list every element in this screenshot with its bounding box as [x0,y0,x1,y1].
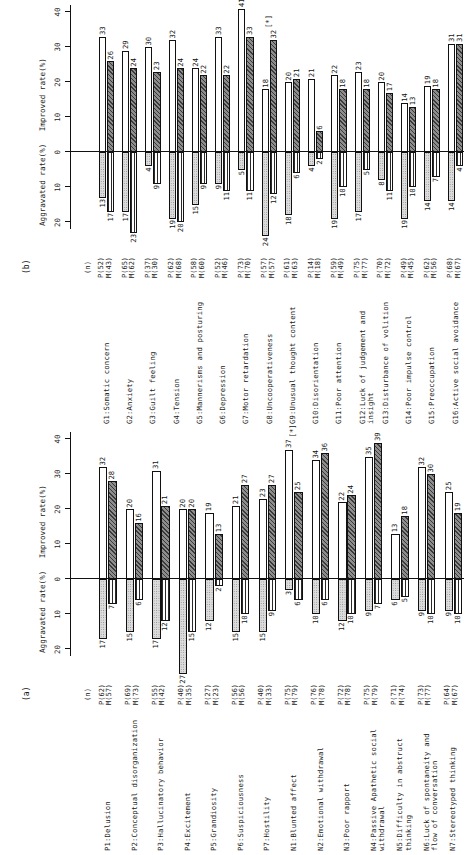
category-labels-column: P1:DelusionP2:Conceptual disorganization… [0,705,476,851]
bar-p-aggravated [205,579,213,621]
axis-tick-label: 40 [53,3,62,21]
value-label-m-improved: 26 [106,51,115,60]
bar-p-improved [215,37,222,153]
sample-size-pair: P(14) M(18) [308,242,323,278]
sample-size-pair: P(75) M(79) [285,669,300,705]
bar-p-improved [418,467,426,579]
bar-p-improved [424,86,431,153]
value-label-p-improved: 29 [121,40,130,49]
value-label-p-aggravated: 10 [311,615,320,625]
value-label-p-improved: 20 [125,499,134,508]
value-label-m-improved: 31 [455,33,464,42]
bar-p-improved [126,509,134,579]
bar-m-improved [135,523,143,579]
bar-p-aggravated [445,579,453,611]
value-label-m-aggravated: 23 [129,234,138,244]
value-label-m-improved: 30 [426,464,435,473]
value-label-m-aggravated: 7 [373,605,382,615]
bar-p-improved [232,506,240,580]
n-header: (n) [83,688,92,701]
bar-m-aggravated [432,152,439,177]
significance-marker: [*] [264,15,273,28]
bar-p-aggravated [312,579,320,614]
value-label-m-aggravated: 10 [240,615,249,625]
chart-panel-b: G1:Somatic concernG2:AnxietyG3:Guilt fee… [0,1,476,428]
bar-p-aggravated [232,579,240,632]
axis-tick [65,543,70,544]
value-label-m-improved: 27 [240,474,249,483]
axis-tick-label: 20 [53,73,62,91]
value-label-m-improved: 17 [385,83,394,92]
value-label-p-aggravated: 9 [364,612,373,622]
bar-m-improved [363,89,370,152]
category-label: P5:Grandiosity [210,705,218,851]
aggravated-axis-header: Aggravated rate(%) [38,571,47,653]
category-label: G1:Somatic concern [103,278,111,424]
sample-size-pair: P(27) M(23) [205,669,220,705]
value-label-p-aggravated: 12 [337,622,346,632]
bar-p-improved [445,492,453,580]
bar-p-improved [378,82,385,152]
axis-tick [65,473,70,474]
axis-tick-label: 30 [53,38,62,56]
value-label-p-improved: 20 [377,72,386,81]
value-label-p-aggravated: 19 [400,220,409,230]
bar-p-aggravated [355,152,362,212]
axis-tick-label: 40 [53,430,62,448]
value-label-m-aggravated: 20 [176,223,185,233]
value-label-m-aggravated: 11 [222,192,231,202]
axis-tick-label: 20 [53,640,62,658]
bar-m-aggravated [270,152,277,194]
bar-p-improved [391,534,399,580]
sample-size-pair: P(61) M(63) [284,242,299,278]
axis-tick [65,151,70,152]
value-label-p-aggravated: 15 [125,633,134,643]
bar-m-aggravated [321,579,329,600]
bar-m-improved [316,131,323,152]
value-label-m-improved: 36 [320,443,329,452]
category-label: G2:Anxiety [126,278,134,424]
sample-size-pair: P(71) M(74) [391,669,406,705]
value-label-m-improved: 18 [338,79,347,88]
bar-p-aggravated [215,152,222,184]
value-label-p-aggravated: 13 [98,199,107,209]
sample-size-pair: P(76) M(78) [311,669,326,705]
bar-p-aggravated [192,152,199,205]
bar-p-aggravated [418,579,426,611]
value-label-m-aggravated: 15 [187,633,196,643]
value-label-m-improved: 19 [453,503,462,512]
value-label-p-improved: 41 [237,0,246,7]
category-label: N3:Poor rapport [343,705,351,851]
improved-axis-header: Improved rate(%) [38,485,47,558]
bar-m-improved [432,89,439,152]
sample-size-column: (n)P(62) M(57)P(69) M(73)P(55) M(42)P(40… [0,669,476,705]
bar-p-improved [192,68,199,152]
axis-tick-label: 20 [53,500,62,518]
value-label-p-improved: 23 [258,489,267,498]
bar-m-improved [130,68,137,152]
value-label-p-improved: 35 [364,446,373,455]
sample-size-pair: P(72) M(78) [338,669,353,705]
bar-p-improved [169,40,176,152]
value-label-m-aggravated: 11 [385,192,394,202]
value-label-m-aggravated: 5 [362,171,371,181]
category-label: P6:Suspiciousness [237,705,245,851]
axis-tick-label: 10 [53,108,62,126]
sample-size-pair: P(56) M(56) [232,669,247,705]
value-label-m-improved: 33 [245,26,254,35]
bar-m-improved [427,474,435,579]
chart-panel-a: P1:DelusionP2:Conceptual disorganization… [0,428,476,855]
bar-m-aggravated [215,579,223,586]
bar-p-improved [285,82,292,152]
bar-m-improved [339,89,346,152]
bar-p-aggravated [259,579,267,632]
value-label-p-improved: 22 [330,65,339,74]
value-label-m-improved: 16 [134,513,143,522]
sample-size-pair: P(40) M(33) [258,669,273,705]
value-label-p-improved: 34 [311,450,320,459]
value-label-p-aggravated: 12 [204,622,213,632]
bar-p-aggravated [99,579,107,639]
sample-size-pair: P(73) M(77) [418,669,433,705]
value-label-p-improved: 22 [337,492,346,501]
bar-p-improved [401,103,408,152]
